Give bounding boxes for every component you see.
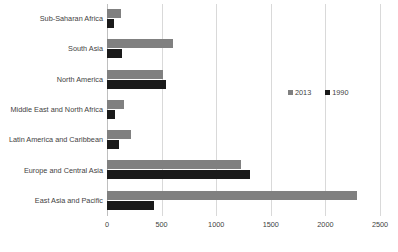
bar-2013[interactable] [107, 191, 357, 200]
legend-swatch-2013-icon [288, 90, 293, 95]
bar-chart: Sub-Saharan AfricaSouth AsiaNorth Americ… [0, 0, 398, 252]
category-label: Europe and Central Asia [0, 166, 103, 175]
x-tick-label: 500 [156, 220, 168, 229]
bar-1990[interactable] [107, 170, 250, 179]
bar-2013[interactable] [107, 70, 163, 79]
bar-2013[interactable] [107, 160, 241, 169]
bar-group [107, 125, 380, 155]
plot-area [107, 4, 380, 216]
category-label: Middle East and North Africa [0, 105, 103, 114]
x-tick-label: 2000 [317, 220, 333, 229]
bar-group [107, 95, 380, 125]
category-label: Latin America and Caribbean [0, 135, 103, 144]
bar-group [107, 186, 380, 216]
bar-1990[interactable] [107, 201, 154, 210]
bar-1990[interactable] [107, 49, 122, 58]
bar-group [107, 34, 380, 64]
category-label: East Asia and Pacific [0, 196, 103, 205]
legend-label-1990: 1990 [332, 88, 348, 97]
chart-legend: 2013 1990 [288, 88, 348, 97]
legend-item-2013[interactable]: 2013 [288, 88, 311, 97]
x-tick-label: 0 [105, 220, 109, 229]
bar-2013[interactable] [107, 9, 121, 18]
x-axis: 05001000150020002500 [0, 216, 398, 236]
category-label: North America [0, 75, 103, 84]
bar-1990[interactable] [107, 80, 166, 89]
gridline-2500 [380, 4, 381, 216]
x-tick-label: 2500 [372, 220, 388, 229]
legend-item-1990[interactable]: 1990 [325, 88, 348, 97]
x-tick-label: 1000 [208, 220, 224, 229]
category-label: Sub-Saharan Africa [0, 14, 103, 23]
bar-1990[interactable] [107, 140, 119, 149]
bar-1990[interactable] [107, 19, 114, 28]
bar-2013[interactable] [107, 39, 173, 48]
bar-group [107, 4, 380, 34]
bar-2013[interactable] [107, 130, 131, 139]
bar-1990[interactable] [107, 110, 115, 119]
bar-rows [107, 4, 380, 216]
bar-2013[interactable] [107, 100, 124, 109]
x-tick-label: 1500 [263, 220, 279, 229]
category-label: South Asia [0, 44, 103, 53]
bar-group [107, 155, 380, 185]
legend-swatch-1990-icon [325, 90, 330, 95]
legend-label-2013: 2013 [295, 88, 311, 97]
